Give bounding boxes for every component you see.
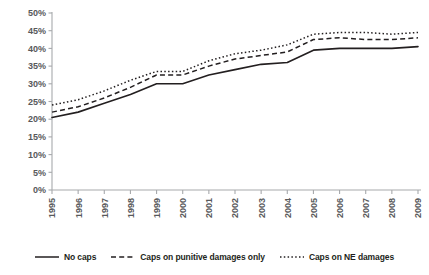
y-axis-tick-label: 40% bbox=[28, 44, 46, 54]
y-axis-tick-label: 30% bbox=[28, 79, 46, 89]
y-axis: 0%5%10%15%20%25%30%35%40%45%50% bbox=[28, 8, 52, 195]
y-axis-tick-label: 50% bbox=[28, 8, 46, 18]
y-axis-tick-label: 35% bbox=[28, 61, 46, 71]
legend-swatch-dotted-icon bbox=[280, 253, 304, 261]
x-axis: 1995199619971998199920002001200220032004… bbox=[47, 190, 423, 218]
x-axis-tick-label: 2009 bbox=[413, 198, 423, 218]
legend-label: No caps bbox=[64, 252, 96, 262]
x-axis-tick-label: 1998 bbox=[126, 198, 136, 218]
y-axis-tick-label: 10% bbox=[28, 150, 46, 160]
legend-swatch-dashed-icon bbox=[111, 253, 135, 261]
series-line-dotted bbox=[52, 32, 418, 105]
y-axis-tick-label: 25% bbox=[28, 97, 46, 107]
x-axis-tick-label: 2006 bbox=[335, 198, 345, 218]
chart-legend: No capsCaps on punitive damages onlyCaps… bbox=[0, 252, 429, 262]
x-axis-tick-label: 1997 bbox=[100, 198, 110, 218]
legend-item[interactable]: Caps on NE damages bbox=[280, 252, 394, 262]
y-axis-tick-label: 15% bbox=[28, 132, 46, 142]
legend-label: Caps on punitive damages only bbox=[140, 252, 265, 262]
x-axis-tick-label: 2005 bbox=[309, 198, 319, 218]
legend-item[interactable]: No caps bbox=[35, 252, 96, 262]
chart-plot-area: 0%5%10%15%20%25%30%35%40%45%50% 19951996… bbox=[0, 0, 429, 275]
x-axis-tick-label: 2000 bbox=[178, 198, 188, 218]
x-axis-tick-label: 2003 bbox=[257, 198, 267, 218]
data-series-group bbox=[52, 32, 418, 117]
y-axis-tick-label: 45% bbox=[28, 26, 46, 36]
y-axis-tick-label: 5% bbox=[33, 168, 46, 178]
x-axis-tick-label: 2008 bbox=[387, 198, 397, 218]
x-axis-tick-label: 2002 bbox=[230, 198, 240, 218]
legend-swatch-solid-icon bbox=[35, 253, 59, 261]
legend-item[interactable]: Caps on punitive damages only bbox=[111, 252, 265, 262]
x-axis-tick-label: 2004 bbox=[283, 198, 293, 218]
x-axis-tick-label: 1996 bbox=[74, 198, 84, 218]
x-axis-tick-label: 1999 bbox=[152, 198, 162, 218]
y-axis-tick-label: 0% bbox=[33, 185, 46, 195]
legend-label: Caps on NE damages bbox=[309, 252, 394, 262]
line-chart: 0%5%10%15%20%25%30%35%40%45%50% 19951996… bbox=[0, 0, 429, 275]
x-axis-tick-label: 2001 bbox=[204, 198, 214, 218]
x-axis-tick-label: 2007 bbox=[361, 198, 371, 218]
y-axis-tick-label: 20% bbox=[28, 114, 46, 124]
x-axis-tick-label: 1995 bbox=[47, 198, 57, 218]
series-line-solid bbox=[52, 47, 418, 118]
